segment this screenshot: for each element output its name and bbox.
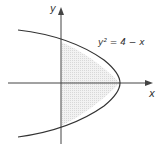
y-axis-label: y	[50, 3, 56, 14]
y-axis-arrow-icon	[58, 7, 64, 15]
parabola-diagram	[0, 0, 157, 148]
x-axis-label: x	[149, 88, 155, 99]
shaded-region	[61, 42, 120, 126]
x-axis-arrow-icon	[145, 80, 153, 86]
equation-label: y² = 4 − x	[98, 37, 145, 47]
